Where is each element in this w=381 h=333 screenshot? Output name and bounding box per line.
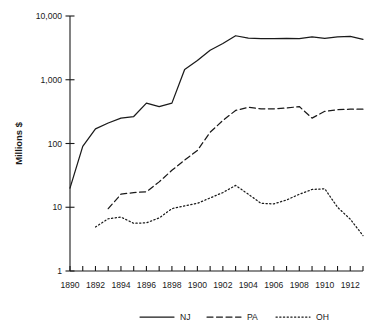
x-tick-label: 1908 — [290, 280, 309, 290]
y-tick-label: 1,000 — [40, 75, 62, 85]
y-axis-group: 10,0001,000100101 — [36, 11, 75, 276]
x-tick-label: 1912 — [341, 280, 360, 290]
legend-label-oh: OH — [316, 312, 329, 322]
y-axis-tick-labels: 10,0001,000100101 — [36, 11, 63, 276]
x-tick-label: 1896 — [137, 280, 156, 290]
series-line-nj — [70, 36, 363, 188]
x-tick-label: 1894 — [111, 280, 130, 290]
x-tick-label: 1910 — [315, 280, 334, 290]
y-axis-title: Millions $ — [13, 121, 24, 165]
x-tick-label: 1906 — [264, 280, 283, 290]
y-tick-label: 100 — [48, 139, 63, 149]
chart-figure: 10,0001,000100101 1890189218941896189819… — [0, 0, 381, 333]
x-axis-ticks — [70, 266, 363, 271]
y-axis-title-text: Millions $ — [13, 121, 24, 165]
x-tick-label: 1904 — [239, 280, 258, 290]
x-tick-label: 1900 — [188, 280, 207, 290]
x-tick-label: 1892 — [86, 280, 105, 290]
x-tick-label: 1898 — [162, 280, 181, 290]
series-line-pa — [108, 107, 363, 209]
y-tick-label: 1 — [57, 266, 62, 276]
x-axis-tick-labels: 1890189218941896189819001902190419061908… — [60, 280, 360, 290]
legend-label-nj: NJ — [180, 312, 191, 322]
chart-legend: NJPAOH — [140, 312, 329, 322]
x-tick-label: 1902 — [213, 280, 232, 290]
x-tick-label: 1890 — [60, 280, 79, 290]
line-chart: 10,0001,000100101 1890189218941896189819… — [0, 0, 381, 333]
x-axis-group: 1890189218941896189819001902190419061908… — [60, 266, 363, 290]
legend-label-pa: PA — [247, 312, 258, 322]
series-group — [70, 36, 363, 236]
y-tick-label: 10,000 — [36, 11, 63, 21]
y-tick-label: 10 — [52, 202, 62, 212]
